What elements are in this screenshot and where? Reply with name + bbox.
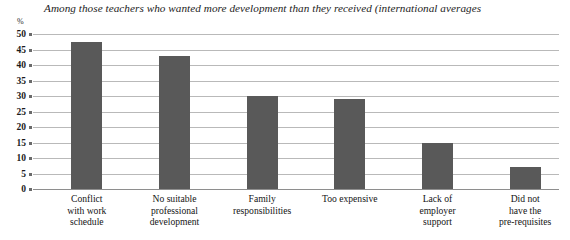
x-tick-label-line: development (123, 216, 227, 228)
y-tick-label: 30 (2, 92, 26, 102)
x-tick-label-line: have the (473, 205, 570, 217)
x-tick-label-line: Did not (473, 193, 570, 205)
y-tick-label: 0 (2, 185, 26, 195)
y-tick-mark (29, 33, 32, 36)
y-tick-mark (29, 142, 32, 145)
y-tick-mark (29, 173, 32, 176)
y-tick-mark (29, 49, 32, 52)
y-tick-label: 20 (2, 123, 26, 133)
y-tick-label: 5 (2, 170, 26, 180)
y-tick-label: 35 (2, 77, 26, 87)
y-axis: 50454035302520151050 (0, 34, 33, 190)
x-tick-label-line: pre-requisites (473, 216, 570, 228)
y-tick-label: 45 (2, 46, 26, 56)
y-tick-label: 25 (2, 108, 26, 118)
bar (510, 167, 541, 189)
y-tick-label: 40 (2, 61, 26, 71)
y-tick-mark (29, 80, 32, 83)
x-tick-label: Did nothave thepre-requisites (473, 193, 570, 228)
bar (71, 42, 102, 189)
bar-chart: Among those teachers who wanted more dev… (0, 0, 570, 240)
y-tick-label: 50 (2, 30, 26, 40)
y-tick-mark (29, 157, 32, 160)
bar (247, 96, 278, 189)
y-axis-unit-label: % (17, 17, 24, 26)
y-tick-label: 10 (2, 154, 26, 164)
y-tick-label: 15 (2, 139, 26, 149)
x-tick-label-line: responsibilities (210, 205, 314, 217)
y-tick-mark (29, 64, 32, 67)
bar (159, 56, 190, 189)
bar (422, 143, 453, 190)
gridline (33, 189, 559, 190)
y-tick-mark (29, 111, 32, 114)
y-tick-mark (29, 95, 32, 98)
bar-series (33, 34, 559, 189)
bar (334, 99, 365, 189)
chart-title: Among those teachers who wanted more dev… (44, 1, 564, 15)
y-tick-mark (29, 126, 32, 129)
y-tick-mark (29, 188, 32, 191)
x-axis-labels: Conflictwith workscheduleNo suitableprof… (33, 193, 559, 240)
